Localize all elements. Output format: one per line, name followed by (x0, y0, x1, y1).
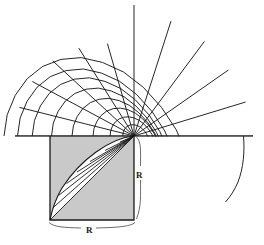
geometry-figure: R R (0, 0, 264, 245)
radial-spoke (134, 70, 228, 136)
spiral-tail (226, 136, 244, 202)
radial-spokes (15, 5, 253, 136)
brace-vertical-top (137, 137, 141, 166)
radial-spoke (134, 21, 171, 136)
radial-spoke (134, 102, 246, 136)
radius-label-vertical: R (136, 171, 143, 180)
brace-horizontal-left (49, 223, 81, 229)
brace-vertical-bottom (137, 180, 141, 219)
radius-label-horizontal: R (86, 226, 93, 235)
polar-grid-group (4, 5, 253, 157)
lower-spiral-tails (226, 136, 244, 202)
diagram-canvas (0, 0, 264, 245)
brace-horizontal-right (96, 223, 135, 229)
radial-spoke (19, 107, 134, 136)
